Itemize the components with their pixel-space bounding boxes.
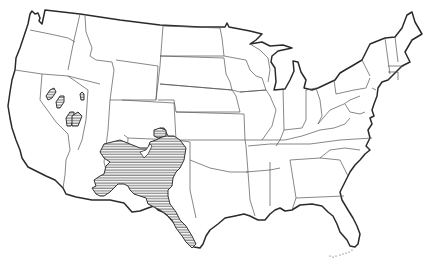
range-patch-1 [46, 88, 56, 100]
range-main [92, 128, 196, 248]
range-patch-utah [154, 128, 166, 138]
range-patch-4 [80, 92, 84, 100]
us-range-map [0, 0, 427, 268]
range-patch-2 [56, 96, 64, 108]
us-outline [8, 10, 422, 248]
florida-keys [329, 249, 352, 257]
